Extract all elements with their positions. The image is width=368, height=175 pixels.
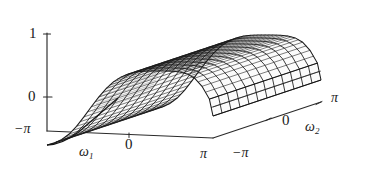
surface-plot-canvas [0,0,368,175]
surface-fill [47,35,321,145]
omega1-axis-label: ω1 [79,145,93,161]
surface-plot-figure: 1 0 −π 0 π ω1 −π 0 π ω2 [0,0,368,175]
z-tick-label-one: 1 [29,26,37,41]
omega2-tick-label-zero: 0 [282,113,290,128]
omega2-tick-label-pi: π [331,91,338,105]
omega2-tick-label-negpi: −π [232,146,248,160]
omega1-tick-label-negpi: −π [14,122,30,136]
omega1-axis-label-sub: 1 [89,151,94,161]
omega2-axis-label-text: ω [305,119,315,134]
surface-mesh [47,35,321,145]
omega1-tick-label-zero: 0 [125,137,133,152]
omega1-tick-label-pi: π [200,147,207,161]
omega2-axis-label: ω2 [305,120,319,136]
omega2-axis-label-sub: 2 [315,126,320,136]
omega1-axis-label-text: ω [79,144,89,159]
z-tick-label-zero: 0 [28,89,36,104]
